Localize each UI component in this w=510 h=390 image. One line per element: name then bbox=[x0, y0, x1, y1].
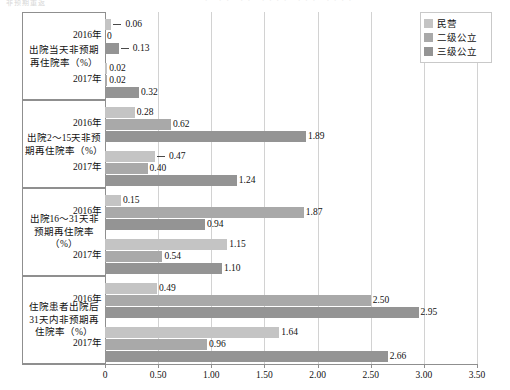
bar bbox=[105, 87, 139, 98]
x-tick-label: 1.50 bbox=[244, 370, 284, 380]
bar-value-label: 2.50 bbox=[373, 295, 390, 305]
bar-value-label: 0.02 bbox=[109, 75, 126, 85]
bar-value-label: 1.10 bbox=[224, 263, 241, 273]
ghost-text-right: · ·· ·· ···· ··· ···· bbox=[205, 0, 356, 5]
x-tick bbox=[105, 364, 106, 368]
bar-value-label: 1.89 bbox=[308, 131, 325, 141]
chart-root: 非预期重返 · ·· ·· ···· ··· ···· 出院当天非预期再住院率（… bbox=[0, 0, 510, 390]
category-label-cell: 出院2～15天非预期再住院率（%） bbox=[22, 100, 105, 188]
bar bbox=[105, 239, 227, 250]
bar bbox=[105, 163, 148, 174]
x-tick bbox=[158, 364, 159, 368]
bar-value-label: 1.64 bbox=[281, 327, 298, 337]
x-tick bbox=[211, 364, 212, 368]
bar-value-label: 0.32 bbox=[141, 87, 158, 97]
bar-value-label: 2.95 bbox=[421, 307, 438, 317]
bar bbox=[105, 63, 107, 74]
bar bbox=[105, 75, 107, 86]
value-leader-line bbox=[121, 48, 129, 49]
x-axis-line bbox=[22, 364, 477, 365]
bar bbox=[105, 119, 171, 130]
x-tick-label: 2.00 bbox=[298, 370, 338, 380]
bar bbox=[105, 219, 205, 230]
bar-value-label: 0 bbox=[107, 31, 112, 41]
bar-value-label: 0.02 bbox=[109, 63, 126, 73]
cut-off-header-strip: 非预期重返 · ·· ·· ···· ··· ···· bbox=[0, 0, 510, 9]
bar bbox=[105, 339, 207, 350]
year-label: 2016年 bbox=[62, 27, 102, 41]
x-tick-label: 3.50 bbox=[457, 370, 497, 380]
year-label: 2016年 bbox=[62, 291, 102, 305]
x-tick bbox=[424, 364, 425, 368]
bar bbox=[105, 131, 306, 142]
bar-value-label: 0.15 bbox=[123, 195, 140, 205]
bar-value-label: 0.49 bbox=[159, 283, 176, 293]
legend-label: 三级公立 bbox=[437, 44, 477, 58]
bar bbox=[105, 207, 304, 218]
bar-value-label: 0.54 bbox=[164, 251, 181, 261]
legend-item-private[interactable]: 民营 bbox=[424, 16, 488, 30]
bar-value-label: 0.28 bbox=[137, 107, 154, 117]
year-label: 2017年 bbox=[62, 71, 102, 85]
bar-value-label: 0.40 bbox=[150, 163, 167, 173]
bar-value-label: 2.66 bbox=[390, 351, 407, 361]
bar bbox=[105, 151, 155, 162]
bar-value-label: 0.47 bbox=[169, 151, 186, 161]
category-label-cell: 出院16～31天非预期再住院率（%） bbox=[22, 188, 105, 276]
legend-item-secondary-public[interactable]: 二级公立 bbox=[424, 30, 488, 44]
bar-value-label: 0.62 bbox=[173, 119, 190, 129]
category-label-text: 住院患者出院后31天内非预期再住院率（%） bbox=[25, 301, 103, 339]
x-tick-label: 0.50 bbox=[138, 370, 178, 380]
ghost-text-left: 非预期重返 bbox=[6, 0, 46, 7]
bar bbox=[105, 19, 111, 30]
x-tick-label: 0 bbox=[85, 370, 125, 380]
year-label: 2017年 bbox=[62, 159, 102, 173]
category-label-cell: 出院当天非预期再住院率（%） bbox=[22, 12, 105, 100]
bar bbox=[105, 327, 279, 338]
bar-value-label: 0.13 bbox=[133, 43, 150, 53]
x-tick bbox=[318, 364, 319, 368]
x-tick-label: 3.00 bbox=[404, 370, 444, 380]
bar bbox=[105, 307, 419, 318]
bar bbox=[105, 295, 371, 306]
category-label-text: 出院2～15天非预期再住院率（%） bbox=[25, 132, 103, 157]
year-label: 2017年 bbox=[62, 247, 102, 261]
x-tick-label: 1.00 bbox=[191, 370, 231, 380]
bar bbox=[105, 283, 157, 294]
bar bbox=[105, 195, 121, 206]
year-label: 2016年 bbox=[62, 203, 102, 217]
bar-value-label: 1.15 bbox=[229, 239, 246, 249]
legend-swatch-icon bbox=[424, 47, 433, 56]
bar-value-label: 0.96 bbox=[209, 339, 226, 349]
value-leader-line bbox=[157, 156, 165, 157]
year-label: 2016年 bbox=[62, 115, 102, 129]
value-leader-line bbox=[113, 24, 121, 25]
bar bbox=[105, 43, 119, 54]
bar bbox=[105, 351, 388, 362]
category-label-cell: 住院患者出院后31天内非预期再住院率（%） bbox=[22, 276, 105, 364]
gridline bbox=[477, 12, 478, 364]
bar-value-label: 1.87 bbox=[306, 207, 323, 217]
x-tick bbox=[371, 364, 372, 368]
year-label: 2017年 bbox=[62, 335, 102, 349]
x-tick bbox=[264, 364, 265, 368]
bar-value-label: 1.24 bbox=[239, 175, 256, 185]
bar bbox=[105, 175, 237, 186]
legend-label: 民营 bbox=[437, 16, 457, 30]
legend-swatch-icon bbox=[424, 33, 433, 42]
bar bbox=[105, 107, 135, 118]
category-label-text: 出院16～31天非预期再住院率（%） bbox=[25, 213, 103, 251]
legend-swatch-icon bbox=[424, 19, 433, 28]
bar bbox=[105, 263, 222, 274]
x-tick-label: 2.50 bbox=[351, 370, 391, 380]
x-tick bbox=[477, 364, 478, 368]
bar-value-label: 0.94 bbox=[207, 219, 224, 229]
bar-value-label: 0.06 bbox=[125, 19, 142, 29]
legend-item-tertiary-public[interactable]: 三级公立 bbox=[424, 44, 488, 58]
legend: 民营二级公立三级公立 bbox=[420, 12, 492, 63]
legend-label: 二级公立 bbox=[437, 30, 477, 44]
bar bbox=[105, 251, 162, 262]
category-label-text: 出院当天非预期再住院率（%） bbox=[25, 44, 103, 69]
